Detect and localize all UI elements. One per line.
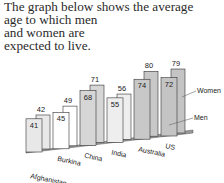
legend-women: Women (182, 87, 221, 97)
value-label-women: 80 (145, 61, 153, 70)
svg-text:Women: Women (197, 87, 221, 94)
svg-text:Men: Men (194, 114, 208, 121)
category-label: Afghanistan (30, 172, 68, 183)
value-label-men: 45 (57, 114, 65, 123)
category-label: India (111, 149, 127, 159)
category-label: China (84, 152, 103, 163)
value-label-men: 68 (84, 93, 92, 102)
value-label-men: 72 (165, 80, 173, 89)
bar-group-india: 5655India (107, 84, 131, 159)
value-label-women: 49 (64, 96, 72, 105)
value-label-women: 71 (91, 75, 99, 84)
value-label-women: 42 (37, 105, 45, 114)
bar-group-china: 7168China (80, 75, 104, 162)
value-label-men: 41 (30, 121, 38, 130)
bar-group-us: 7972US (161, 59, 185, 151)
value-label-men: 74 (138, 81, 146, 90)
bar-group-burkina: 4945Burkina (53, 96, 82, 167)
category-label: US (165, 142, 176, 151)
value-label-women: 79 (172, 59, 180, 68)
category-label: Australia (138, 145, 166, 158)
bar-chart: 4241Afghanistan4945Burkina7168China5655I… (0, 0, 224, 183)
category-label: Burkina (57, 155, 82, 167)
value-label-men: 55 (111, 100, 119, 109)
value-label-women: 56 (118, 84, 126, 93)
